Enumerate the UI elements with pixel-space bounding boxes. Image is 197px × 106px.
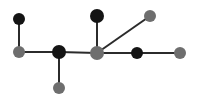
graph-node-center-hub-gray xyxy=(90,46,104,60)
graph-node-upper-right-gray xyxy=(144,10,156,22)
graph-node-left-hub-black xyxy=(52,45,66,59)
graph-node-right-black xyxy=(131,47,143,59)
graph-node-bottom-gray xyxy=(53,82,65,94)
graph-node-far-right-gray xyxy=(174,47,186,59)
network-graph-figure xyxy=(0,0,197,106)
graph-node-top-left-black xyxy=(13,13,25,25)
graph-node-top-center-black xyxy=(90,9,104,23)
graph-node-left-gray xyxy=(13,46,25,58)
graph-canvas xyxy=(0,0,197,106)
